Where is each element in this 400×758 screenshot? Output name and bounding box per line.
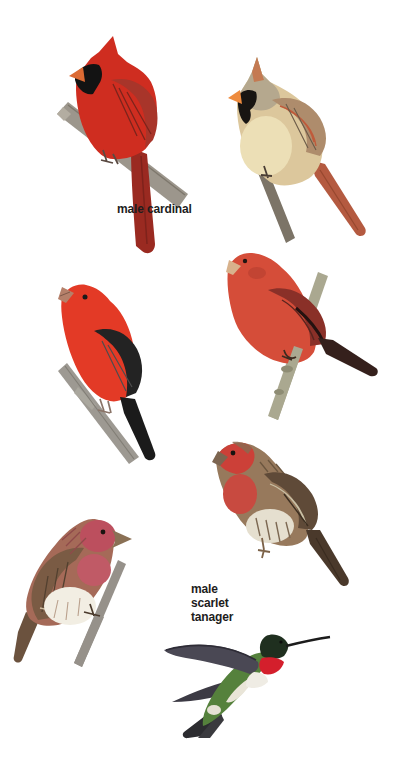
female-cardinal-figure: female cardinal xyxy=(228,48,370,246)
eye xyxy=(101,530,106,535)
field-guide-plate: male cardinal fem xyxy=(0,0,400,758)
feet xyxy=(98,399,111,413)
tail xyxy=(131,148,155,253)
body xyxy=(228,57,326,185)
male-scarlet-tanager-figure: male scarlet tanager xyxy=(58,283,175,473)
summer-tanager-figure: summer tanager xyxy=(226,250,381,422)
male-purple-finch-figure: male purple finch xyxy=(10,512,138,672)
male-cardinal-label: male cardinal xyxy=(117,202,192,216)
summer-tanager-illustration xyxy=(226,250,381,422)
bill xyxy=(286,637,330,646)
upper-wing xyxy=(164,645,259,674)
body xyxy=(69,36,158,164)
male-cardinal-illustration xyxy=(55,30,195,258)
eye xyxy=(231,451,236,456)
body xyxy=(212,442,349,586)
body xyxy=(226,253,378,376)
male-house-finch-illustration xyxy=(212,438,354,593)
eye xyxy=(243,259,247,263)
tail xyxy=(310,160,366,236)
male-purple-finch-illustration xyxy=(10,512,138,672)
male-ruby-throated-hummingbird-figure: male ruby-throated hummingbird xyxy=(158,616,333,741)
male-house-finch-figure: male house finch xyxy=(212,438,354,593)
eye xyxy=(279,640,282,643)
male-cardinal-figure: male cardinal xyxy=(55,30,195,258)
female-cardinal-illustration xyxy=(228,48,370,246)
male-scarlet-tanager-illustration xyxy=(58,283,175,473)
eye xyxy=(83,295,88,300)
male-ruby-throated-hummingbird-illustration xyxy=(158,616,333,741)
